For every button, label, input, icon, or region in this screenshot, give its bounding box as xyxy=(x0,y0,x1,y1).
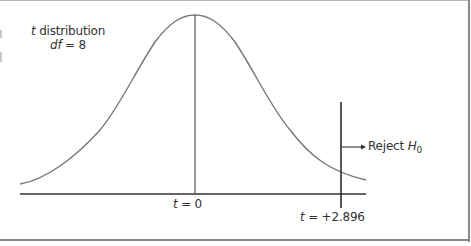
center-value-label: t = 0 xyxy=(173,198,202,211)
critical-value-label: t = +2.896 xyxy=(300,211,365,224)
reject-region-label: Reject H0 xyxy=(368,140,422,157)
arrow-head-icon xyxy=(361,145,366,150)
t-distribution-diagram: t distribution df = 8 t = 0 t = +2.896 R… xyxy=(0,0,471,246)
distribution-name-label: t distribution xyxy=(31,25,105,38)
degrees-of-freedom-label: df = 8 xyxy=(50,39,86,52)
